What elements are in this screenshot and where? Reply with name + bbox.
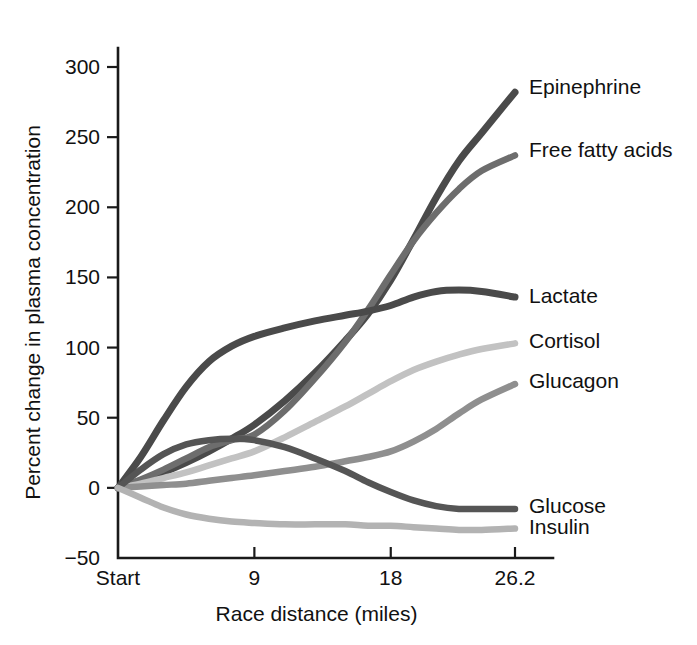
x-axis-title: Race distance (miles)	[216, 602, 418, 625]
y-tick-label: 150	[65, 265, 100, 288]
series-label-glucagon: Glucagon	[529, 369, 619, 392]
y-tick-label: 300	[65, 55, 100, 78]
y-tick-label: 250	[65, 125, 100, 148]
x-axis-ticks: Start91826.2	[96, 547, 536, 589]
series-label-glucose: Glucose	[529, 494, 606, 517]
y-tick-label: 100	[65, 336, 100, 359]
y-tick-label: 0	[88, 476, 100, 499]
series-label-free-fatty-acids: Free fatty acids	[529, 138, 673, 161]
y-axis-title: Percent change in plasma concentration	[21, 125, 44, 500]
y-tick-label: 50	[77, 406, 100, 429]
series-labels-group: EpinephrineFree fatty acidsLactateCortis…	[529, 75, 673, 538]
x-tick-label: 9	[249, 566, 261, 589]
line-chart: −50050100150200250300 Start91826.2 Perce…	[0, 0, 697, 645]
series-label-insulin: Insulin	[529, 515, 590, 538]
chart-figure: −50050100150200250300 Start91826.2 Perce…	[0, 0, 697, 645]
x-tick-label: 18	[379, 566, 402, 589]
x-tick-label: Start	[96, 566, 141, 589]
y-tick-label: −50	[64, 546, 100, 569]
axes-group: −50050100150200250300 Start91826.2 Perce…	[21, 48, 553, 625]
series-lines-group	[118, 92, 515, 530]
x-tick-label: 26.2	[495, 566, 536, 589]
series-label-lactate: Lactate	[529, 284, 598, 307]
y-axis-ticks: −50050100150200250300	[64, 55, 118, 569]
y-tick-label: 200	[65, 195, 100, 218]
series-label-epinephrine: Epinephrine	[529, 75, 641, 98]
series-label-cortisol: Cortisol	[529, 329, 600, 352]
